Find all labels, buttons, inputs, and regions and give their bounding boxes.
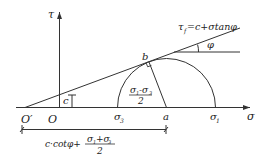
o-prime-label: O′ (21, 113, 33, 126)
mohr-circle (118, 58, 216, 107)
dimension-prefix: c·cotφ+ (45, 139, 81, 149)
phi-angle-label: φ (207, 39, 214, 50)
radius-numerator-op: -σ (139, 85, 149, 95)
sigma3-subscript: 3 (120, 117, 124, 124)
tau-axis-label: τ (48, 8, 55, 21)
dimension-numerator-sub3: 3 (108, 139, 111, 145)
mohr-coulomb-diagram: τ σ τ f =c+σtanφ φ O′ O σ 3 a σ 1 b c σ … (0, 0, 267, 164)
point-b-label: b (142, 51, 148, 62)
radius-line-ab (149, 62, 167, 108)
sigma1-subscript: 1 (216, 117, 220, 124)
point-a-label: a (163, 111, 169, 122)
cohesion-label: c (63, 95, 69, 106)
radius-denominator: 2 (137, 96, 144, 106)
radius-numerator-sub3: 3 (149, 90, 152, 96)
envelope-equation-rest: =c+σtanφ (187, 21, 237, 32)
dimension-denominator: 2 (96, 146, 103, 156)
sigma-axis-label: σ (247, 110, 255, 123)
diagram-canvas: τ σ τ f =c+σtanφ φ O′ O σ 3 a σ 1 b c σ … (0, 0, 267, 164)
origin-label: O (48, 113, 57, 126)
phi-angle-arc (198, 45, 199, 52)
